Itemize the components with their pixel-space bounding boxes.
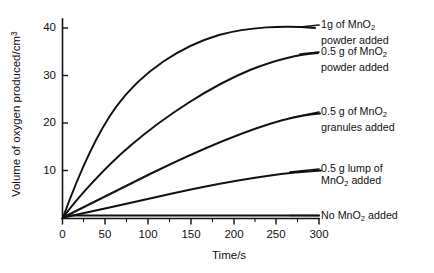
series-label-0-5g-granules: 0.5 g of MnO2 granules added <box>321 105 395 134</box>
series-label-0-5g-powder-line2: powder added <box>321 61 389 73</box>
curve-0-5g-powder <box>63 53 318 218</box>
x-axis-title: Time/s <box>212 249 246 261</box>
ytick-label-30: 30 <box>26 69 56 81</box>
xtick-label-200: 200 <box>217 228 251 240</box>
xtick-label-150: 150 <box>174 228 208 240</box>
series-label-0-5g-granules-sub: 2 <box>383 110 387 119</box>
ytick-label-10: 10 <box>26 164 56 176</box>
series-label-0-5g-lump: 0.5 g lump of MnO2 added <box>321 162 383 191</box>
series-label-0-5g-lump-tail: added <box>348 174 381 186</box>
y-axis-title: Volume of oxygen produced/cm3 <box>10 14 22 214</box>
xtick-label-50: 50 <box>88 228 122 240</box>
series-label-no-mno2-tail: added <box>365 209 398 221</box>
ytick-label-20: 20 <box>26 116 56 128</box>
x-axis-ticks <box>63 219 320 225</box>
series-label-0-5g-lump-line1: 0.5 g lump of <box>321 162 383 174</box>
series-label-0-5g-granules-line1: 0.5 g of MnO <box>321 105 383 117</box>
series-label-0-5g-powder-line1: 0.5 g of MnO <box>321 45 383 57</box>
series-label-1g-powder-sub: 2 <box>371 23 375 32</box>
xtick-label-100: 100 <box>131 228 165 240</box>
series-label-no-mno2: No MnO2 added <box>321 209 398 225</box>
series-label-0-5g-lump-line2: MnO2 added <box>321 174 383 190</box>
y-axis-ticks <box>63 28 69 171</box>
chart-figure: 40 30 20 10 0 50 100 150 200 250 300 Tim… <box>0 0 434 273</box>
y-axis-title-superscript: 3 <box>10 31 19 36</box>
leader-1g-powder <box>300 25 319 27</box>
leader-0-5g-granules <box>290 112 319 118</box>
xtick-label-0: 0 <box>46 228 80 240</box>
ytick-label-40: 40 <box>26 21 56 33</box>
xtick-label-250: 250 <box>259 228 293 240</box>
xtick-label-300: 300 <box>302 228 336 240</box>
series-label-1g-powder-line1: 1g of MnO <box>321 18 371 30</box>
series-label-0-5g-powder-sub: 2 <box>383 50 387 59</box>
series-label-0-5g-powder: 0.5 g of MnO2 powder added <box>321 45 389 74</box>
series-label-0-5g-lump-line2-text: MnO <box>321 174 344 186</box>
series-label-0-5g-granules-line2: granules added <box>321 121 395 133</box>
y-axis-title-text: Volume of oxygen produced/cm <box>10 36 22 197</box>
series-label-1g-powder: 1g of MnO2 powder added <box>321 18 389 47</box>
curve-0-5g-lump <box>63 171 321 218</box>
series-label-no-mno2-line1: No MnO <box>321 209 361 221</box>
